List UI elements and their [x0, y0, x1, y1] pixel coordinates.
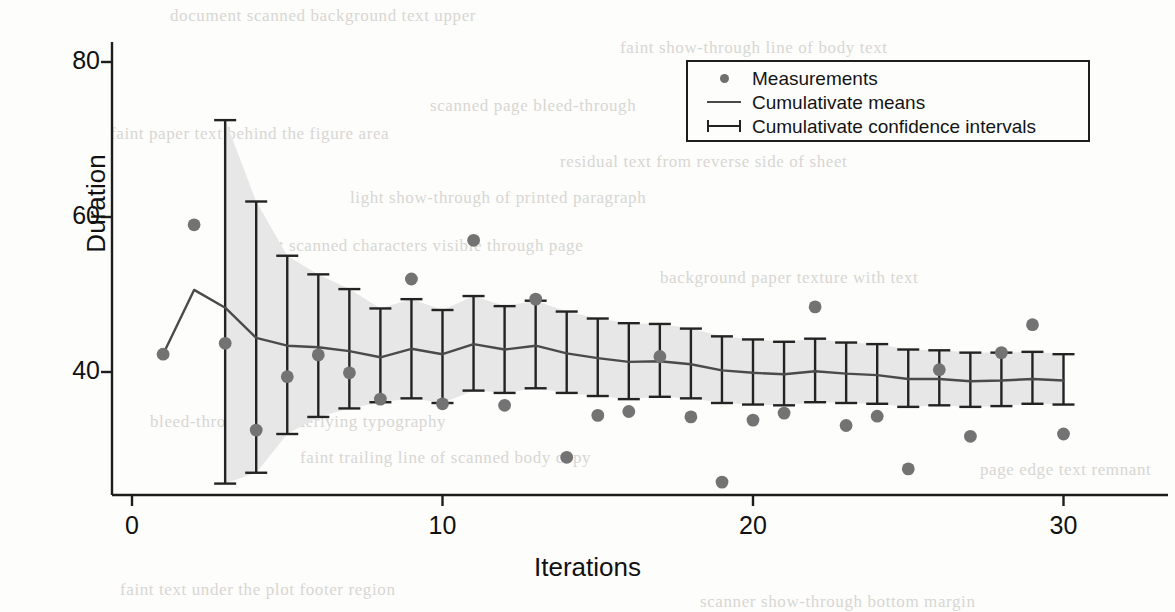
- chart-legend: Measurements Cumulativate means Cumulati…: [686, 60, 1090, 142]
- data-point: [188, 218, 201, 231]
- dot-marker-icon: [696, 74, 752, 83]
- data-point: [405, 273, 418, 286]
- x-axis-title: Iterations: [0, 552, 1175, 583]
- legend-item-measurements: Measurements: [696, 66, 1078, 90]
- x-tick-label: 20: [713, 511, 793, 540]
- data-point: [622, 405, 635, 418]
- data-point: [529, 293, 542, 306]
- legend-item-means: Cumulativate means: [696, 90, 1078, 114]
- errorbar-marker-icon: [696, 120, 752, 132]
- x-tick-label: 30: [1024, 511, 1104, 540]
- y-tick-label: 60: [40, 201, 100, 230]
- data-point: [778, 407, 791, 420]
- data-point: [902, 463, 915, 476]
- data-point: [436, 397, 449, 410]
- data-point: [312, 349, 325, 362]
- data-point: [1026, 318, 1039, 331]
- data-point: [343, 366, 356, 379]
- legend-label-means: Cumulativate means: [752, 93, 925, 112]
- x-tick-label: 0: [92, 511, 172, 540]
- data-point: [809, 301, 822, 314]
- data-point: [219, 337, 232, 350]
- data-point: [1057, 428, 1070, 441]
- legend-label-confidence-intervals: Cumulativate confidence intervals: [752, 117, 1036, 136]
- legend-item-confidence-intervals: Cumulativate confidence intervals: [696, 114, 1078, 138]
- data-point: [871, 410, 884, 423]
- confidence-band: [225, 120, 1063, 484]
- data-point: [840, 419, 853, 432]
- data-point: [933, 363, 946, 376]
- data-point: [498, 399, 511, 412]
- data-point: [157, 348, 170, 361]
- data-point: [250, 424, 263, 437]
- data-point: [716, 476, 729, 489]
- data-point: [747, 414, 760, 427]
- data-point: [467, 234, 480, 247]
- y-tick-label: 80: [40, 46, 100, 75]
- data-point: [560, 451, 573, 464]
- legend-label-measurements: Measurements: [752, 69, 878, 88]
- y-tick-label: 40: [40, 356, 100, 385]
- data-point: [654, 350, 667, 363]
- data-point: [995, 346, 1008, 359]
- data-point: [374, 393, 387, 406]
- data-point: [964, 430, 977, 443]
- line-marker-icon: [696, 101, 752, 103]
- data-point: [685, 411, 698, 424]
- data-point: [281, 370, 294, 383]
- data-point: [591, 409, 604, 422]
- x-tick-label: 10: [403, 511, 483, 540]
